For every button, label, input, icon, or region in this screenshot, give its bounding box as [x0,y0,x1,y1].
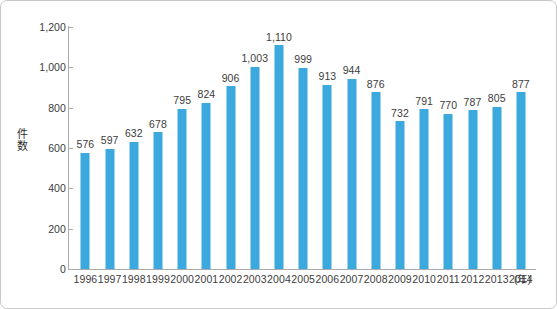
bar[interactable] [444,114,453,269]
y-axis-tick-label-wrap: 400 [21,188,66,189]
bar-slot: 787 [460,27,484,269]
bar-slot: 824 [194,27,218,269]
x-axis-line [68,269,536,270]
bar-slot: 876 [364,27,388,269]
y-axis-tick-label-wrap: 600 [21,148,66,149]
bar-slot: 770 [436,27,460,269]
bar-slot: 576 [73,27,97,269]
y-axis-tick-label: 400 [28,183,66,194]
bar-slot: 906 [218,27,242,269]
y-axis-title-char-2: 数 [15,140,29,152]
bar-slot: 597 [98,27,122,269]
bar-value-label: 1,003 [241,53,268,64]
bar-slot: 632 [122,27,146,269]
bar-value-label: 906 [222,73,240,84]
bar-value-label: 576 [76,139,94,150]
bar-value-label: 1,110 [266,32,292,43]
bar-value-label: 944 [343,65,361,76]
bar-slot: 791 [412,27,436,269]
bar-value-label: 787 [464,97,482,108]
y-axis-tick-label: 0 [28,264,66,275]
bar-slot: 678 [146,27,170,269]
y-axis-tick-label-wrap: 1,000 [21,67,66,68]
bar[interactable] [323,85,332,269]
x-axis-unit-label: (年) [514,273,531,286]
bar[interactable] [516,92,525,269]
bar-value-label: 732 [391,108,409,119]
bar-value-label: 877 [512,79,530,90]
bar-slot: 999 [291,27,315,269]
bar-value-label: 824 [197,89,215,100]
chart-frame: 件 数 02004006008001,0001,200 576597632678… [0,0,557,309]
bar[interactable] [420,109,429,269]
bar-value-label: 632 [125,128,143,139]
bar-value-label: 913 [318,71,336,82]
y-axis-tick-label: 1,200 [28,22,66,33]
bar-slot: 795 [170,27,194,269]
bar-value-label: 791 [415,96,433,107]
bar[interactable] [371,92,380,269]
y-axis-tick-label-wrap: 1,200 [21,27,66,28]
bar-value-label: 999 [294,54,312,65]
bar[interactable] [178,109,187,269]
bar[interactable] [395,121,404,269]
bar[interactable] [468,110,477,269]
bar[interactable] [153,132,162,269]
y-axis-title-char-1: 件 [15,128,29,140]
bar-value-label: 678 [149,119,167,130]
y-axis-tick-label: 200 [28,224,66,235]
plot-area: 5765976326787958249061,0031,110999913944… [68,27,541,269]
bar-value-label: 805 [488,93,506,104]
bar[interactable] [299,68,308,269]
bar-value-label: 597 [101,135,119,146]
bar[interactable] [274,45,283,269]
bar-value-label: 876 [367,79,385,90]
bar-slot: 732 [388,27,412,269]
bar-slot: 877 [509,27,533,269]
y-axis-tick-label: 800 [28,103,66,114]
bar[interactable] [129,142,138,269]
bar[interactable] [347,79,356,269]
y-axis-tick-label: 1,000 [28,62,66,73]
x-axis-labels: 1996199719981999200020012002200320042005… [68,273,541,293]
bar[interactable] [202,103,211,269]
y-axis-tick-label: 600 [28,143,66,154]
bar-value-label: 770 [439,100,457,111]
bar[interactable] [250,67,259,269]
y-axis-tick-label-wrap: 200 [21,229,66,230]
y-axis-tick-label-wrap: 0 [21,269,66,270]
bar-value-label: 795 [173,95,191,106]
bar-slot: 913 [315,27,339,269]
bar[interactable] [105,149,114,269]
bar[interactable] [226,86,235,269]
bar[interactable] [81,153,90,269]
y-axis-tick-label-wrap: 800 [21,108,66,109]
bar-slot: 805 [485,27,509,269]
bar[interactable] [492,107,501,269]
bar-slot: 944 [339,27,363,269]
bar-slot: 1,110 [267,27,291,269]
bar-slot: 1,003 [243,27,267,269]
